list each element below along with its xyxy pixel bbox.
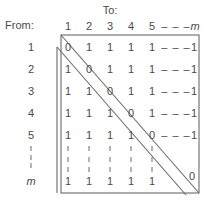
ellipsis-dot <box>152 146 153 151</box>
matrix-cell: 1 <box>107 64 113 75</box>
ellipsis-dot <box>68 146 69 151</box>
matrix-cell: 1 <box>149 176 155 187</box>
ellipsis-dot <box>131 167 132 172</box>
matrix-cell: 1 <box>149 64 155 75</box>
matrix-cell: 0 <box>86 64 92 75</box>
matrix-cell: 1 <box>107 130 113 141</box>
ellipsis-dot <box>110 157 111 162</box>
matrix-cell: 1 <box>149 108 155 119</box>
matrix-cell-corner-zero: 0 <box>189 171 195 182</box>
matrix-cell: 1 <box>128 130 134 141</box>
matrix-cell-ellipsis <box>89 146 90 172</box>
matrix-cell: 0 <box>128 108 134 119</box>
matrix-cell: 1 <box>128 64 134 75</box>
matrix-cell: 1 <box>149 86 155 97</box>
matrix-cell: 0 <box>149 130 155 141</box>
matrix-cell: 1 <box>86 86 92 97</box>
matrix-cell-dashes: – – – <box>161 130 190 141</box>
matrix-cell-dashes: – – – <box>161 42 190 53</box>
matrix-cell: 1 <box>191 86 197 97</box>
from-to-matrix-figure: From: To: 1 2 3 4 5 – – – m 1 2 3 4 5 m … <box>0 0 214 202</box>
ellipsis-dot <box>131 157 132 162</box>
matrix-cell: 1 <box>65 130 71 141</box>
matrix-cell: 1 <box>65 176 71 187</box>
matrix-cell: 1 <box>149 42 155 53</box>
matrix-cell: 1 <box>191 42 197 53</box>
matrix-cell: 1 <box>65 108 71 119</box>
ellipsis-dot <box>68 167 69 172</box>
matrix-cell-ellipsis <box>110 146 111 172</box>
matrix-cell: 1 <box>191 108 197 119</box>
matrix-cell: 1 <box>128 86 134 97</box>
matrix-cell: 1 <box>86 176 92 187</box>
ellipsis-dot <box>131 146 132 151</box>
ellipsis-dot <box>152 157 153 162</box>
matrix-cell: 1 <box>107 176 113 187</box>
matrix-cell: 1 <box>65 64 71 75</box>
matrix-cell: 1 <box>107 42 113 53</box>
ellipsis-dot <box>110 146 111 151</box>
ellipsis-dot <box>68 157 69 162</box>
matrix-cell: 1 <box>191 130 197 141</box>
matrix-cell: 1 <box>86 130 92 141</box>
matrix-cell-dashes: – – – <box>161 86 190 97</box>
matrix-cell: 1 <box>191 64 197 75</box>
matrix-cell: 1 <box>86 42 92 53</box>
matrix-cell: 0 <box>65 42 71 53</box>
matrix-cell-dashes: – – – <box>161 64 190 75</box>
ellipsis-dot <box>110 167 111 172</box>
matrix-cell: 1 <box>86 108 92 119</box>
matrix-cell-dashes: – – – <box>161 108 190 119</box>
ellipsis-dot <box>89 146 90 151</box>
matrix-cell: 1 <box>65 86 71 97</box>
matrix-cell-ellipsis <box>131 146 132 172</box>
matrix-cell: 1 <box>128 176 134 187</box>
matrix-cell-ellipsis <box>68 146 69 172</box>
matrix-cell: 0 <box>107 86 113 97</box>
matrix-cell: 1 <box>107 108 113 119</box>
matrix-frame-and-diagonals <box>0 0 214 202</box>
matrix-cell-ellipsis <box>152 146 153 172</box>
ellipsis-dot <box>89 167 90 172</box>
ellipsis-dot <box>152 167 153 172</box>
matrix-cell: 1 <box>128 42 134 53</box>
ellipsis-dot <box>89 157 90 162</box>
